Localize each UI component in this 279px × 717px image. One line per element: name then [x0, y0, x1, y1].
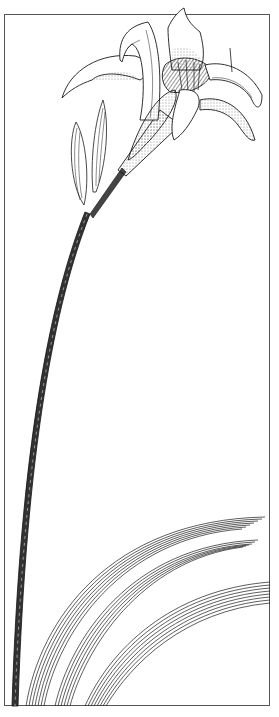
stem: [12, 168, 126, 706]
leaf-upper: [26, 517, 265, 706]
leaf-lower: [85, 582, 270, 706]
botanical-plate: [0, 0, 279, 717]
petal-lower-right: [200, 99, 255, 141]
bud-left: [71, 122, 86, 205]
leaves: [26, 517, 270, 706]
plant-drawing: [0, 0, 279, 717]
flower-buds: [71, 100, 106, 205]
flower: [62, 8, 262, 176]
leaf-middle: [55, 540, 258, 706]
